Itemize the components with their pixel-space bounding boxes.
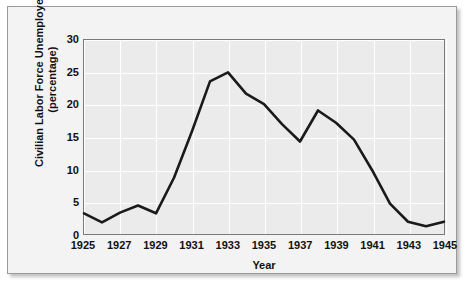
y-axis-title-line1: Civilian Labor Force Unemployed [33, 0, 46, 180]
chart-figure: 302520151050 Civilian Labor Force Unempl… [0, 0, 469, 289]
x-tick-label: 1941 [353, 240, 393, 251]
x-tick-label: 1929 [135, 240, 175, 251]
y-axis-title: Civilian Labor Force Unemployed (percent… [33, 0, 58, 180]
x-tick-label: 1943 [389, 240, 429, 251]
y-tick-label: 10 [57, 164, 79, 175]
x-tick-label: 1927 [99, 240, 139, 251]
x-tick-label: 1945 [425, 240, 465, 251]
y-tick-label: 5 [57, 197, 79, 208]
figure-frame: 302520151050 Civilian Labor Force Unempl… [7, 6, 457, 274]
gridline-vertical [446, 40, 447, 234]
series-line-unemployment [84, 40, 444, 234]
x-tick-label: 1931 [172, 240, 212, 251]
x-tick-label: 1937 [280, 240, 320, 251]
x-axis-title: Year [83, 259, 445, 271]
plot-area [83, 39, 445, 235]
x-tick-label: 1939 [316, 240, 356, 251]
x-axis-tick-labels: 1925192719291931193319351937193919411943… [83, 240, 445, 256]
y-axis-title-line2: (percentage) [46, 0, 59, 180]
x-tick-label: 1935 [244, 240, 284, 251]
y-tick-label: 30 [57, 34, 79, 45]
y-tick-label: 25 [57, 66, 79, 77]
x-tick-label: 1925 [63, 240, 103, 251]
x-tick-label: 1933 [208, 240, 248, 251]
y-tick-label: 15 [57, 132, 79, 143]
y-tick-label: 20 [57, 99, 79, 110]
